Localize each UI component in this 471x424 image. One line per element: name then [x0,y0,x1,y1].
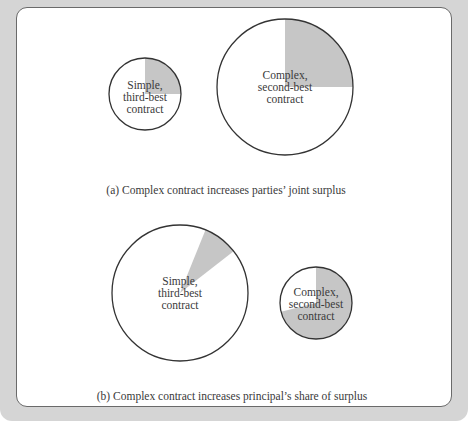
pie-diagram [0,0,471,424]
label-line: Complex, [258,69,312,81]
caption-b: (b) Complex contract increases principal… [97,390,368,402]
label-line: third-best [123,91,167,103]
pie-a-simple-label: Simple, third-best contract [123,79,167,115]
caption-a: (a) Complex contract increases parties’ … [106,184,345,196]
label-line: contract [289,310,343,322]
label-line: contract [258,93,312,105]
pie-a-complex-label: Complex, second-best contract [258,69,312,105]
pie-b-complex-label: Complex, second-best contract [289,286,343,322]
label-line: Simple, [123,79,167,91]
label-line: contract [158,299,202,311]
label-line: Complex, [289,286,343,298]
label-line: third-best [158,287,202,299]
label-line: second-best [258,81,312,93]
pie-b-simple-label: Simple, third-best contract [158,275,202,311]
label-line: Simple, [158,275,202,287]
label-line: second-best [289,298,343,310]
label-line: contract [123,103,167,115]
